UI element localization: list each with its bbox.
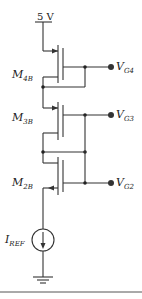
current-arrow-icon <box>41 243 46 249</box>
ground-icon <box>33 277 53 283</box>
vg2-label: VG2 <box>116 176 135 191</box>
vg3-terminal <box>108 112 114 118</box>
supply-label: 5 V <box>37 11 55 22</box>
m4b-drain-node <box>41 85 45 89</box>
m2b-source-arrow-icon <box>48 186 54 191</box>
vg2-terminal <box>108 180 114 186</box>
m2b-gate-node <box>83 181 87 185</box>
transistor-m4b: M4B VG4 <box>11 45 134 108</box>
m4b-gate-node <box>83 65 87 69</box>
m3b-label: M3B <box>11 111 33 126</box>
circuit-diagram: 5 V M4B VG4 M3B VG3 <box>0 0 142 299</box>
vg4-label: VG4 <box>116 60 134 75</box>
m3b-drain-node <box>41 150 45 154</box>
transistor-m2b: M2B VG2 <box>11 157 135 229</box>
transistor-m3b: M3B VG3 <box>11 102 135 163</box>
m3b-source-arrow-icon <box>52 106 58 111</box>
vg4-terminal <box>108 64 114 70</box>
current-source-iref: IREF <box>4 229 54 277</box>
m2b-label: M2B <box>11 176 33 191</box>
vg3-label: VG3 <box>116 108 135 123</box>
m4b-label: M4B <box>11 68 33 83</box>
iref-label: IREF <box>4 233 26 248</box>
m4b-source-arrow-icon <box>52 49 58 54</box>
